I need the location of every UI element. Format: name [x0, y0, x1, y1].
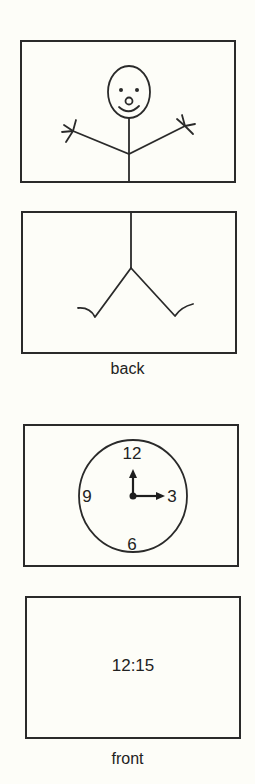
panel-digital-time: 12:15 — [25, 596, 241, 739]
panel-analog-clock: 12 3 6 9 — [23, 424, 239, 567]
clock-numeral-3: 3 — [167, 487, 176, 506]
panel-stick-figure-upper — [20, 40, 236, 183]
caption-back: back — [0, 360, 255, 378]
stick-figure-upper-icon — [22, 42, 234, 181]
stick-figure-lower-icon — [23, 213, 235, 352]
caption-front: front — [0, 750, 255, 768]
clock-numeral-12: 12 — [123, 444, 142, 463]
digital-time-text: 12:15 — [27, 656, 239, 676]
clock-numeral-6: 6 — [127, 535, 136, 554]
panel-stick-figure-lower — [21, 211, 237, 354]
clock-numeral-9: 9 — [82, 487, 91, 506]
analog-clock-icon: 12 3 6 9 — [25, 426, 237, 565]
